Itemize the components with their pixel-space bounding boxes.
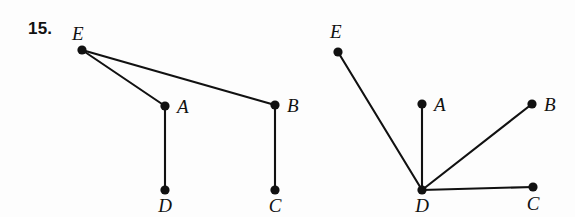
- graph-edge-EA: [82, 50, 165, 106]
- graph-vertex-A: [160, 101, 169, 110]
- vertex-label-B: B: [544, 94, 556, 115]
- graph-vertex-B: [270, 100, 279, 109]
- problem-number: 15.: [28, 19, 52, 39]
- graph-edge-EB: [82, 50, 275, 105]
- vertex-label-A: A: [175, 96, 189, 117]
- vertex-label-D: D: [157, 195, 172, 216]
- graph-edge-CD: [422, 187, 533, 190]
- vertex-label-A: A: [432, 94, 446, 115]
- diagram-page: 15. EABDC EABDC: [0, 0, 575, 217]
- vertex-label-C: C: [269, 195, 282, 216]
- vertex-label-B: B: [287, 95, 299, 116]
- graph-vertex-E: [77, 45, 86, 54]
- graph-edge-BD: [422, 104, 532, 190]
- vertex-label-E: E: [71, 23, 84, 44]
- graph-vertex-D: [417, 185, 426, 194]
- graph-vertex-C: [270, 185, 279, 194]
- vertex-label-D: D: [414, 195, 429, 216]
- graph-vertex-A: [417, 99, 426, 108]
- graph-canvas: EABDC EABDC: [0, 0, 575, 217]
- right-graph: EABDC: [329, 21, 556, 216]
- vertex-label-C: C: [527, 193, 540, 214]
- left-graph: EABDC: [71, 23, 299, 216]
- graph-edge-ED: [338, 52, 422, 190]
- graph-vertex-C: [528, 182, 537, 191]
- graph-vertex-D: [160, 185, 169, 194]
- graph-vertex-E: [333, 47, 342, 56]
- vertex-label-E: E: [329, 21, 342, 42]
- graph-vertex-B: [527, 99, 536, 108]
